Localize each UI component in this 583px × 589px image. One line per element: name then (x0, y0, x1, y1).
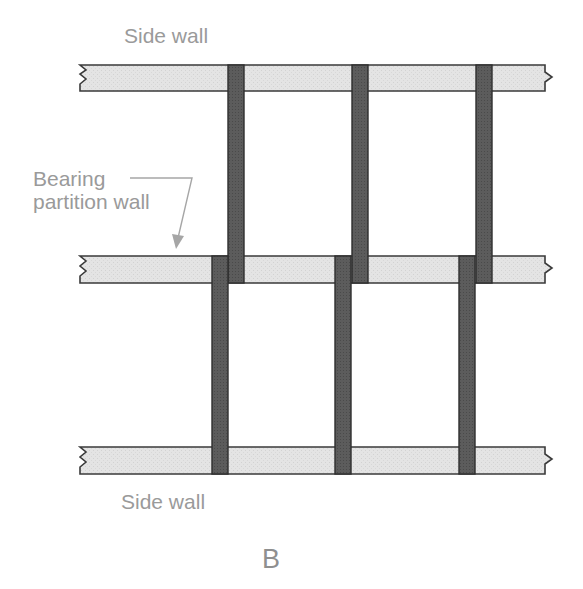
joist (212, 256, 228, 474)
bearing-wall-label-line1: Bearing (33, 167, 105, 191)
figure-letter: B (262, 544, 280, 575)
lower-span-joists (212, 256, 475, 474)
joist-layout-drawing (0, 0, 583, 589)
joist (335, 256, 351, 474)
top-side-wall-label: Side wall (124, 24, 208, 48)
joist (476, 65, 492, 283)
bottom-side-wall-label: Side wall (121, 490, 205, 514)
floor-joist-diagram: Side wall Bearing partition wall Side wa… (0, 0, 583, 589)
joist (459, 256, 475, 474)
upper-span-joists (228, 65, 492, 283)
bearing-wall-label-line2: partition wall (33, 190, 150, 214)
bottom-side-wall (80, 447, 552, 474)
joist (228, 65, 244, 283)
joist (352, 65, 368, 283)
